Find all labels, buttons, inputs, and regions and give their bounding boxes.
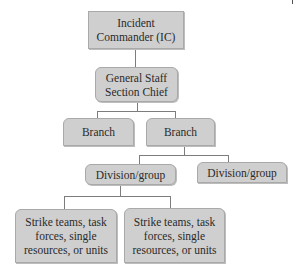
node-branch-right-label: Branch [164, 125, 197, 139]
node-division-group-right: Division/group [197, 162, 287, 183]
connector-branch-bus [97, 111, 176, 112]
connector-ic-to-general-staff [135, 48, 136, 67]
node-strike-teams-left: Strike teams, task forces, single resour… [15, 209, 117, 263]
node-branch-right: Branch [146, 118, 215, 146]
node-strike-teams-right: Strike teams, task forces, single resour… [124, 208, 225, 263]
connector-strike-bus [64, 196, 171, 197]
node-incident-commander-label: Incident Commander (IC) [97, 16, 176, 44]
connector-to-branch-right [175, 111, 176, 118]
connector-division-bus [139, 155, 229, 156]
connector-to-division-right [228, 155, 229, 162]
node-strike-right-label: Strike teams, task forces, single resour… [133, 215, 217, 257]
connector-to-strike-right [170, 196, 171, 208]
node-strike-left-label: Strike teams, task forces, single resour… [24, 215, 108, 257]
node-division-left-label: Division/group [96, 168, 166, 182]
connector-to-strike-left [64, 196, 65, 209]
node-branch-left: Branch [63, 118, 134, 146]
connector-to-division-left [139, 155, 140, 164]
node-branch-left-label: Branch [82, 125, 115, 139]
node-general-staff-section-chief: General Staff Section Chief [95, 67, 178, 102]
corner-mark [292, 0, 293, 4]
node-division-right-label: Division/group [207, 166, 277, 180]
node-incident-commander: Incident Commander (IC) [88, 11, 184, 49]
node-general-staff-label: General Staff Section Chief [105, 71, 168, 99]
connector-to-branch-left [97, 111, 98, 118]
node-division-group-left: Division/group [85, 164, 176, 185]
